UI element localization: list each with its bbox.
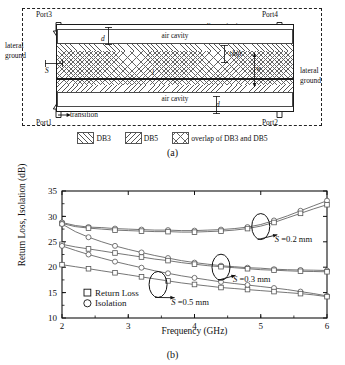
series-group-label: S =0.3 mm — [233, 274, 271, 284]
port3-label: Port3 — [36, 10, 52, 19]
y-tick-label: 15 — [48, 288, 58, 298]
series-marker-circle — [139, 250, 144, 255]
air-cavity-bottom-label: air cavity — [58, 93, 292, 106]
series-line — [62, 201, 327, 231]
series-marker-square — [192, 262, 197, 267]
dimension-shift-label: shift — [229, 49, 242, 58]
series-marker-square — [245, 226, 250, 231]
legend-label-overlap: overlap of DB3 and DB5 — [191, 134, 267, 143]
series-marker-circle — [166, 271, 171, 276]
x-tick-label: 2 — [60, 321, 65, 331]
y-tick-label: 10 — [48, 313, 58, 323]
port1-label: Port1 — [36, 118, 52, 127]
series-marker-square — [219, 229, 224, 234]
series-marker-circle — [113, 259, 118, 264]
legend-item-db3: DB3 — [77, 132, 110, 144]
legend-label-db5: DB5 — [144, 134, 158, 143]
air-cavity-bottom: air cavity — [57, 92, 293, 107]
dimension-d-bottom-label: d — [216, 100, 220, 109]
series-marker-circle — [139, 265, 144, 270]
series-marker-square — [113, 251, 118, 256]
lateral-ground-left-label-line2: ground — [5, 51, 26, 60]
legend-item-overlap: overlap of DB3 and DB5 — [172, 132, 267, 144]
series-marker-square — [298, 211, 303, 216]
series-marker-square — [245, 266, 250, 271]
legend-label-db3: DB3 — [96, 134, 110, 143]
series-marker-circle — [86, 235, 91, 240]
db3-strip-top — [57, 44, 293, 51]
series-marker-square — [325, 202, 330, 207]
series-marker-square — [166, 258, 171, 263]
dimension-d-top-icon — [104, 26, 113, 46]
overlap-swatch-icon — [172, 132, 189, 144]
chart-plot-area: 23456101520253035S =0.2 mmS =0.3 mmS =0.… — [0, 168, 345, 348]
dimension-s-label: S — [45, 66, 49, 75]
db3-swatch-icon — [77, 132, 94, 144]
db5-swatch-icon — [125, 132, 142, 144]
series-marker-square — [298, 269, 303, 274]
series-group-label: S =0.5 mm — [171, 297, 209, 307]
x-tick-label: 6 — [325, 321, 330, 331]
series-marker-circle — [60, 243, 65, 248]
series-marker-square — [245, 287, 250, 292]
series-group-label: S =0.2 mm — [275, 234, 313, 244]
air-cavity-top-label: air cavity — [58, 30, 292, 43]
series-marker-square — [86, 226, 91, 231]
x-tick-label: 3 — [126, 321, 131, 331]
schematic-panel: Port3 Port4 Port1 Port2 lateral ground l… — [0, 0, 345, 168]
legend-label-isolation: Isolation — [95, 298, 127, 308]
series-marker-square — [219, 264, 224, 269]
y-tick-label: 25 — [48, 237, 58, 247]
series-marker-square — [139, 275, 144, 280]
lateral-ground-left-label-line1: lateral — [5, 41, 23, 50]
series-marker-square — [298, 291, 303, 296]
series-marker-square — [113, 270, 118, 275]
port4-label: Port4 — [262, 10, 278, 19]
series-marker-square — [192, 230, 197, 235]
series-marker-square — [60, 262, 65, 267]
y-tick-label: 30 — [48, 212, 58, 222]
lateral-ground-right-label-line1: lateral — [300, 66, 318, 75]
legend-label-return-loss: Return Loss — [95, 288, 139, 298]
y-tick-label: 35 — [48, 186, 58, 196]
callout-ellipse — [149, 271, 167, 297]
series-marker-circle — [60, 222, 65, 227]
y-tick-label: 20 — [48, 262, 58, 272]
series-marker-square — [139, 229, 144, 234]
series-marker-square — [86, 247, 91, 252]
series-marker-square — [192, 282, 197, 287]
series-marker-circle — [113, 243, 118, 248]
series-marker-square — [325, 294, 330, 299]
schematic-legend: DB3 DB5 overlap of DB3 and DB5 — [0, 130, 345, 146]
x-tick-label: 4 — [192, 321, 197, 331]
series-marker-square — [325, 269, 330, 274]
lateral-ground-right-label-line2: ground — [300, 76, 321, 85]
dimension-l-label: l — [152, 68, 154, 77]
series-marker-square — [166, 229, 171, 234]
series-marker-square — [272, 268, 277, 273]
dimension-shift-icon — [220, 44, 229, 64]
series-marker-circle — [192, 275, 197, 280]
series-marker-circle — [86, 252, 91, 257]
series-marker-square — [272, 289, 277, 294]
series-marker-square — [139, 255, 144, 260]
chart-panel: Return Loss, Isolation (dB) Frequency (G… — [0, 168, 345, 348]
dimension-w-label: w — [256, 64, 261, 73]
series-marker-square — [219, 285, 224, 290]
panel-a-caption: (a) — [0, 147, 345, 158]
series-marker-square — [272, 220, 277, 225]
x-tick-label: 5 — [259, 321, 264, 331]
dimension-d-top-label: d — [101, 34, 105, 43]
series-marker-square — [86, 266, 91, 271]
port2-label: Port2 — [262, 118, 278, 127]
series-marker-square — [113, 228, 118, 233]
air-cavity-top: air cavity — [57, 29, 293, 44]
legend-marker-circle — [84, 300, 91, 307]
legend-item-db5: DB5 — [125, 132, 158, 144]
legend-marker-square — [84, 289, 91, 296]
panel-b-caption: (b) — [0, 349, 345, 360]
